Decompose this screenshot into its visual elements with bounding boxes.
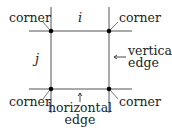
- label-index-j: j: [32, 51, 39, 66]
- label-corner-bottom-left: corner: [9, 94, 51, 109]
- label-corner-top-left: corner: [9, 10, 51, 25]
- corner-dot-top-right: [107, 29, 112, 34]
- label-vertical-edge-line2: edge: [128, 55, 159, 70]
- grid-cell-diagram: corner corner corner corner i j vertical…: [0, 0, 172, 136]
- label-corner-bottom-right: corner: [119, 94, 161, 109]
- pointer-top-right: [111, 22, 118, 29]
- pointer-bottom-right: [111, 91, 118, 99]
- corner-dots: [49, 29, 112, 92]
- corner-dot-top-left: [49, 29, 54, 34]
- label-corner-top-right: corner: [119, 10, 161, 25]
- corner-dot-bottom-left: [49, 87, 54, 92]
- corner-pointers: [43, 22, 118, 99]
- label-horizontal-edge-line2: edge: [65, 112, 96, 127]
- label-index-i: i: [78, 10, 82, 25]
- corner-dot-bottom-right: [107, 87, 112, 92]
